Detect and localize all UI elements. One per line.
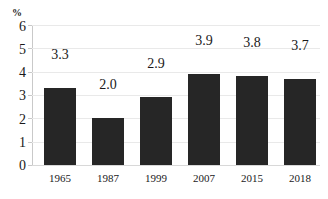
y-axis-tick-label-5: 5 [0, 43, 26, 57]
bar-value-2015: 3.8 [230, 36, 274, 50]
bar-value-2018: 3.7 [278, 39, 322, 53]
bar-1987[interactable] [92, 118, 124, 165]
x-axis-label-1987: 1987 [82, 172, 134, 184]
y-axis-tick-label-2: 2 [0, 113, 26, 127]
tick-0 [28, 165, 32, 166]
bar-value-2007: 3.9 [182, 34, 226, 48]
bar-2015[interactable] [236, 76, 268, 165]
bar-value-1999: 2.9 [134, 57, 178, 71]
bar-2007[interactable] [188, 74, 220, 165]
x-axis-label-1965: 1965 [34, 172, 86, 184]
gridline-0-baseline [32, 165, 320, 166]
x-axis-label-1999: 1999 [130, 172, 182, 184]
bar-2018[interactable] [284, 79, 316, 165]
plot-area [32, 25, 320, 165]
bar-value-1987: 2.0 [86, 78, 130, 92]
bar-1965[interactable] [44, 88, 76, 165]
y-axis-tick-label-3: 3 [0, 89, 26, 103]
x-axis-label-2007: 2007 [178, 172, 230, 184]
bar-layer [32, 25, 320, 165]
y-axis-tick-label-6: 6 [0, 20, 26, 34]
y-axis-tick-label-1: 1 [0, 136, 26, 150]
x-axis-label-2018: 2018 [274, 172, 326, 184]
bar-chart: % 6 5 4 3 2 1 0 3.3 2.0 2.9 3.9 [0, 0, 328, 199]
y-axis-tick-label-0: 0 [0, 159, 26, 173]
bar-value-1965: 3.3 [38, 48, 82, 62]
y-axis-unit-label: % [12, 7, 22, 19]
x-axis-label-2015: 2015 [226, 172, 278, 184]
bar-1999[interactable] [140, 97, 172, 165]
y-axis-tick-label-4: 4 [0, 66, 26, 80]
